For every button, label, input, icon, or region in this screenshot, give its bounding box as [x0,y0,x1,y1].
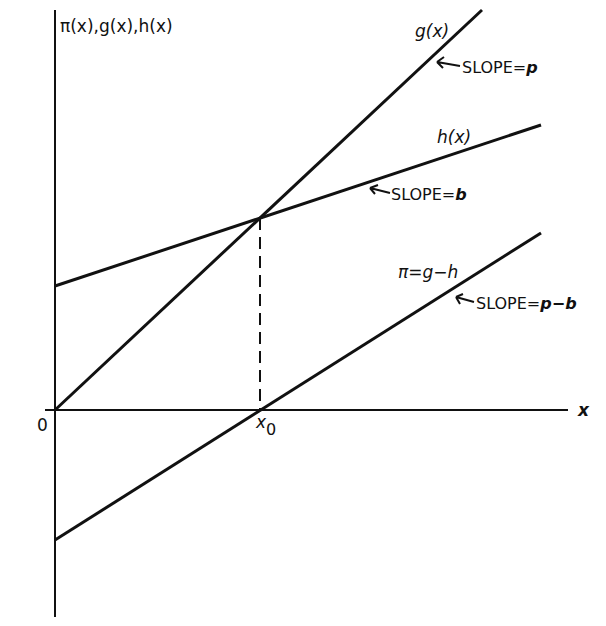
h-line [55,125,541,286]
g-label: g(x) [415,21,449,41]
arrow-left-icon [456,294,474,304]
x-axis-label: x [577,400,590,420]
svg-text:SLOPE=b: SLOPE=b [391,185,467,204]
break-even-diagram: π(x),g(x),h(x) x 0 x0 g(x) SLOPE=p h(x) … [0,0,606,626]
pi-label: π=g−h [398,262,458,282]
arrow-left-icon [370,185,390,194]
origin-label: 0 [37,415,48,435]
g-slope-annotation: SLOPE=p [437,57,538,77]
x0-subscript: 0 [266,420,276,439]
pi-slope-annotation: SLOPE=p−b [456,294,577,313]
y-axis-label: π(x),g(x),h(x) [60,16,173,36]
x0-label: x0 [255,412,276,439]
h-label: h(x) [437,127,471,147]
svg-text:SLOPE=p: SLOPE=p [462,58,538,77]
h-slope-annotation: SLOPE=b [370,185,467,204]
g-line [55,10,482,410]
svg-text:SLOPE=p−b: SLOPE=p−b [476,294,577,313]
pi-line [55,233,541,540]
arrow-left-icon [437,57,460,68]
